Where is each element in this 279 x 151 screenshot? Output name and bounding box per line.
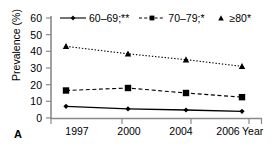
data-point xyxy=(183,90,189,96)
legend-label: 70–79;* xyxy=(168,13,204,24)
chart-figure: Prevalence (%) 60 50 40 30 20 10 0 1997 … xyxy=(0,0,279,151)
series-3 xyxy=(63,43,245,69)
legend-item-60-69: 60–69;** xyxy=(60,13,129,24)
legend-label: 60–69;** xyxy=(89,13,129,24)
series-1 xyxy=(63,104,244,114)
data-point xyxy=(239,94,245,100)
square-marker-icon xyxy=(139,13,165,23)
data-point xyxy=(239,63,245,69)
legend-label: ≥80* xyxy=(230,13,252,24)
series-line xyxy=(66,88,242,97)
diamond-marker-icon xyxy=(60,13,86,23)
data-point xyxy=(63,87,69,93)
data-point xyxy=(125,106,130,111)
triangle-marker-icon xyxy=(215,13,227,23)
data-point xyxy=(63,104,68,109)
series-2 xyxy=(63,85,245,101)
series-line xyxy=(66,106,242,111)
chart-legend: 60–69;** 70–79;* ≥80* xyxy=(60,10,251,26)
data-point xyxy=(63,43,69,49)
data-point xyxy=(239,109,244,114)
x-tick-marks xyxy=(51,119,262,125)
legend-item-80plus: ≥80* xyxy=(215,13,252,24)
series-layer xyxy=(63,43,245,114)
legend-item-70-79: 70–79;* xyxy=(139,13,204,24)
data-point xyxy=(125,50,131,56)
data-point xyxy=(125,85,131,91)
series-line xyxy=(66,46,242,66)
data-point xyxy=(183,107,188,112)
